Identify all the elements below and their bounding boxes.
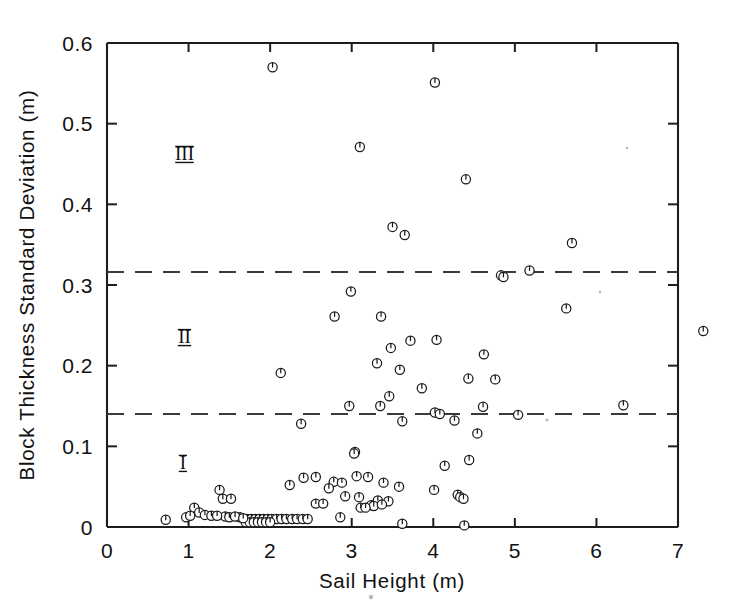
data-point [311,472,320,481]
data-point [430,78,439,87]
data-point [417,384,426,393]
data-point [319,499,328,508]
y-tick-label-4: 0.4 [62,193,93,216]
data-point [354,493,363,502]
data-point [525,266,534,275]
data-point [376,401,385,410]
data-point [161,515,170,524]
data-point [350,449,359,458]
x-tick-label-5: 5 [509,539,521,562]
data-point [398,417,407,426]
data-point [352,472,361,481]
x-axis-title: Sail Height (m) [319,569,465,592]
data-point [491,375,500,384]
y-tick-label-1: 0.1 [62,435,93,458]
x-tick-label-2: 2 [264,539,276,562]
paper-specks [369,147,629,600]
data-point [473,429,482,438]
data-point [460,521,469,530]
data-point [226,494,235,503]
data-point [268,63,277,72]
data-point [465,455,474,464]
data-point [355,142,364,151]
data-point [440,461,449,470]
y-tick-label-6: 0.6 [62,32,93,55]
x-tick-label-7: 7 [672,539,684,562]
data-point [479,350,488,359]
zone-annotations: IIIIII [175,143,194,473]
data-point [337,478,346,487]
data-point [341,492,350,501]
data-point [562,304,571,313]
y-axis-ticks [107,43,678,527]
data-point [361,503,370,512]
y-tick-label-2: 0.2 [62,354,93,377]
data-point [459,494,468,503]
data-point [478,402,487,411]
data-point [213,511,222,520]
data-point [386,343,395,352]
axes-frame [107,43,678,527]
data-point [406,336,415,345]
data-point [435,409,444,418]
y-tick-label-3: 0.3 [62,274,93,297]
data-point [394,482,403,491]
data-point [395,365,404,374]
data-point [398,519,407,528]
y-axis-title: Block Thickness Standard Deviation (m) [15,90,38,481]
data-points-layer [161,63,708,530]
data-point [285,480,294,489]
data-point [372,359,381,368]
data-point [400,230,409,239]
data-point [385,392,394,401]
x-axis-tick-labels: 01234567 [101,539,684,562]
data-point [186,511,195,520]
data-point [377,500,386,509]
plot-canvas: 01234567 00.10.20.30.40.50.6 IIIIII Sail… [0,0,740,610]
x-tick-label-6: 6 [590,539,602,562]
data-point [239,514,248,523]
data-point [430,485,439,494]
x-tick-label-4: 4 [427,539,439,562]
y-axis-tick-labels: 00.10.20.30.40.50.6 [62,32,93,539]
data-point [345,401,354,410]
data-point [303,514,312,523]
data-point [215,485,224,494]
data-point [336,513,345,522]
y-tick-label-0: 0 [81,516,93,539]
data-point [346,287,355,296]
data-point [297,419,306,428]
data-point [388,222,397,231]
data-point [363,472,372,481]
data-point [567,238,576,247]
data-point [379,478,388,487]
data-point [276,368,285,377]
x-tick-label-3: 3 [346,539,358,562]
data-point [324,484,333,493]
data-point [699,326,708,335]
x-tick-label-1: 1 [182,539,194,562]
data-point [330,312,339,321]
data-point [450,416,459,425]
x-tick-label-0: 0 [101,539,113,562]
data-point [461,175,470,184]
y-tick-label-5: 0.5 [62,112,93,135]
data-point [619,401,628,410]
data-point [432,335,441,344]
data-point [376,312,385,321]
scatter-plot-figure: 01234567 00.10.20.30.40.50.6 IIIIII Sail… [0,0,740,610]
data-point [299,473,308,482]
data-point [266,518,275,527]
data-point [464,374,473,383]
data-point [514,410,523,419]
data-point [499,272,508,281]
x-axis-ticks [107,43,678,527]
